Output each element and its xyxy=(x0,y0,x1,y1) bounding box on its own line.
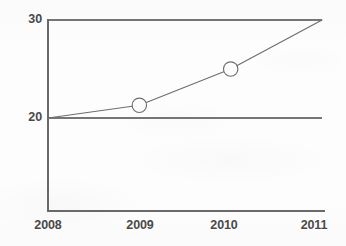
plot-area xyxy=(0,0,346,246)
x-axis-tick-label-2011: 2011 xyxy=(288,218,340,232)
line-chart-figure: 30 20 2008 2009 2010 2011 xyxy=(0,0,346,246)
x-axis-tick-label-2010: 2010 xyxy=(198,218,250,232)
y-axis-tick-label-30: 30 xyxy=(14,12,42,26)
data-point-marker-2010 xyxy=(223,62,237,76)
x-axis-tick-label-2008: 2008 xyxy=(22,218,74,232)
y-axis-tick-label-20: 20 xyxy=(14,110,42,124)
data-line-series-1 xyxy=(48,20,322,118)
x-axis-tick-label-2009: 2009 xyxy=(114,218,166,232)
data-point-marker-2009 xyxy=(132,98,146,112)
